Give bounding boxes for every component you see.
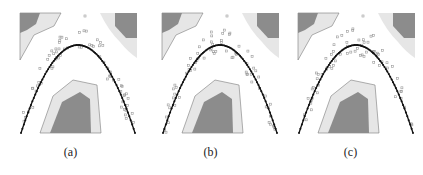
bottom-center-region bbox=[318, 80, 379, 133]
top-right-region bbox=[242, 13, 279, 58]
panel-b-plot bbox=[140, 0, 281, 140]
bottom-center-region bbox=[182, 80, 243, 133]
bottom-center-region bbox=[40, 80, 101, 133]
panel-c: (c) bbox=[280, 0, 421, 175]
panel-c-plot bbox=[280, 0, 421, 140]
panel-a: (a) bbox=[0, 0, 141, 175]
panel-b: (b) bbox=[140, 0, 281, 175]
caption-b: (b) bbox=[140, 145, 281, 160]
panel-a-plot bbox=[0, 0, 141, 140]
figure: (a) (b) (c) bbox=[0, 0, 423, 175]
caption-c: (c) bbox=[280, 145, 421, 160]
top-right-region bbox=[100, 13, 137, 58]
caption-a: (a) bbox=[0, 145, 141, 160]
top-left-region bbox=[298, 13, 339, 60]
